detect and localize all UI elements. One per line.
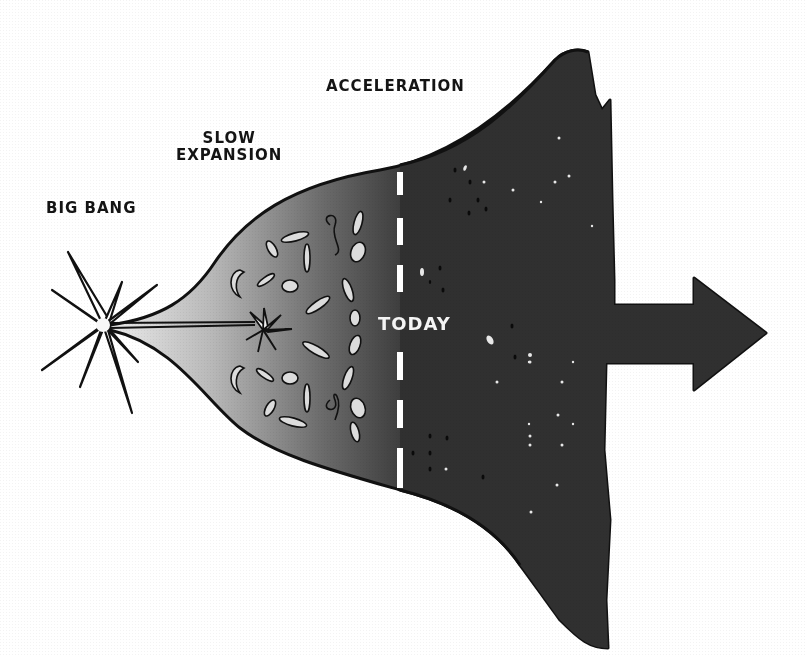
label-today: Today [378,314,451,335]
label-slow-expansion: Slow Expansion [176,130,282,165]
universe-expansion-diagram: Big Bang Slow Expansion Acceleration Tod… [0,0,806,656]
label-slow-line2: Expansion [176,147,282,164]
label-slow-line1: Slow [176,130,282,147]
label-big-bang: Big Bang [46,200,136,217]
label-acceleration: Acceleration [326,78,465,95]
